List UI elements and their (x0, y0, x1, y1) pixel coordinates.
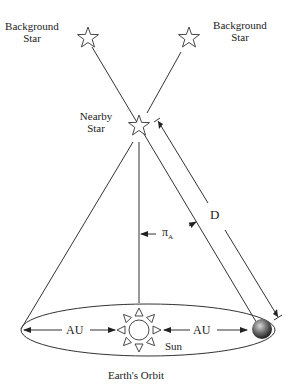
label-background-star-left: Background Star (4, 20, 60, 44)
sight-line-lower (21, 142, 133, 329)
label-line: Star (76, 122, 116, 134)
label-parallax-angle: πA (162, 226, 173, 243)
label-line: Star (4, 32, 60, 44)
label-line: Background (4, 20, 60, 32)
sight-lines (21, 47, 264, 335)
parallax-subscript: A (168, 233, 173, 241)
parallax-arrow-right (189, 222, 196, 226)
background-star-left-icon (78, 27, 99, 47)
label-line: Nearby (76, 110, 116, 122)
label-au-right: AU (193, 324, 210, 336)
distance-tick-top (154, 118, 160, 122)
parallax-diagram (0, 0, 296, 386)
label-line: Star (212, 31, 268, 43)
background-star-right-icon (179, 27, 200, 47)
distance-line-lower (225, 230, 278, 317)
distance-line-upper (158, 121, 208, 203)
label-au-left: AU (66, 324, 83, 336)
label-line: Background (212, 19, 268, 31)
nearby-star-icon (129, 115, 150, 135)
label-nearby-star: Nearby Star (76, 110, 116, 134)
label-distance: D (210, 209, 219, 221)
sight-line-upper (147, 52, 181, 113)
sun-icon (117, 308, 161, 352)
sight-line-earth (92, 47, 264, 335)
earth-icon (252, 319, 272, 339)
label-background-star-right: Background Star (212, 19, 268, 43)
distance-tick-bottom (274, 315, 282, 320)
label-sun: Sun (165, 340, 182, 352)
label-earths-orbit: Earth's Orbit (108, 369, 164, 381)
